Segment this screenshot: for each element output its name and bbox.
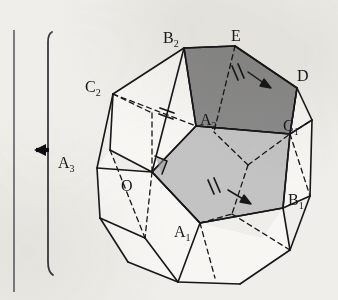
vertex-label-A2: A2	[200, 112, 217, 131]
left-pointing-arrow	[34, 144, 49, 156]
section-bracket	[48, 32, 53, 275]
vertex-label-B2: B2	[163, 30, 179, 49]
vertex-label-A3: A3	[58, 155, 75, 174]
vertex-label-C1: C1	[283, 118, 299, 137]
vertex-label-B1: B1	[288, 192, 304, 211]
vertex-label-C2: C2	[85, 79, 101, 98]
polyhedron-group	[97, 46, 312, 284]
vertex-label-O: O	[121, 178, 133, 197]
vertex-label-A1: A1	[174, 224, 191, 243]
margin-group	[14, 30, 53, 292]
vertex-label-E: E	[231, 28, 241, 47]
diagram-page: B2 E D C2 A2 C1 A3 O A1 B1	[0, 0, 338, 300]
vertex-label-D: D	[297, 68, 309, 87]
